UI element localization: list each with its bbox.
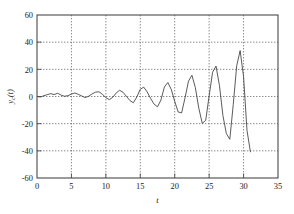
xtick-label-25: 25 <box>205 182 213 191</box>
figure-container: 0 5 10 15 20 25 30 35 60 40 20 0 -20 -40… <box>0 0 294 214</box>
y-tick-labels: 60 40 20 0 -20 -40 -60 <box>22 11 33 183</box>
x-axis-title: t <box>156 195 159 205</box>
y-axis-title: yc(t) <box>5 89 16 105</box>
ytick-label-neg40: -40 <box>22 147 33 156</box>
ytick-label-neg20: -20 <box>22 120 33 129</box>
xtick-label-20: 20 <box>171 182 179 191</box>
ytick-label-20: 20 <box>25 66 33 75</box>
ytick-label-60: 60 <box>25 11 33 20</box>
xtick-label-15: 15 <box>136 182 144 191</box>
y-axis-title-arg: (t) <box>5 89 15 97</box>
x-tick-labels: 0 5 10 15 20 25 30 35 <box>35 182 282 191</box>
xtick-label-5: 5 <box>69 182 73 191</box>
xtick-label-10: 10 <box>102 182 110 191</box>
chart-svg: 0 5 10 15 20 25 30 35 60 40 20 0 -20 -40… <box>0 0 294 214</box>
svg-text:yc(t): yc(t) <box>5 89 16 105</box>
xtick-label-30: 30 <box>239 182 247 191</box>
ytick-label-neg60: -60 <box>22 174 33 183</box>
xtick-label-0: 0 <box>35 182 39 191</box>
xtick-label-35: 35 <box>274 182 282 191</box>
ytick-label-40: 40 <box>25 38 33 47</box>
ytick-label-0: 0 <box>29 93 33 102</box>
